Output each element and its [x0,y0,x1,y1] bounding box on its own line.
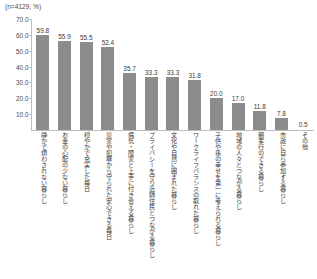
plot-area: 70.060.050.040.030.020.010.0 59.855.955.… [31,19,314,130]
y-tick-label: 20.0 [16,95,28,102]
bar-slot: 35.7 [119,19,141,130]
category-label: 地域の人々とつながる暮らし [236,132,242,210]
bar[interactable]: 0.5 [297,129,310,130]
bar[interactable]: 55.9 [58,41,71,130]
category-label: 市政に自ら参加する暮らし [279,132,285,204]
bar-chart: (n=4129, %) 70.060.050.040.030.020.010.0… [0,0,317,279]
y-tick-mark [29,67,31,68]
bar[interactable]: 17.0 [232,103,245,130]
y-tick-label: 50.0 [16,47,28,54]
bar-value-label: 17.0 [232,95,244,102]
bar[interactable]: 11.8 [253,111,266,130]
bar-slot: 52.4 [97,19,119,130]
category-label: 静かで煩わされない暮らし [40,132,46,204]
y-tick-label: 60.0 [16,31,28,38]
category-label: 災害や犯罪から守られた安心できる毎日 [105,132,111,240]
bar[interactable]: 20.0 [210,98,223,130]
bar[interactable]: 33.3 [166,77,179,130]
category-slot: 親孝行のできる暮らし [250,132,272,192]
y-tick-mark [29,98,31,99]
bar-slot: 11.8 [249,19,271,130]
category-slot: 静かで煩わされない暮らし [32,132,54,204]
bar-slot: 31.8 [184,19,206,130]
bar-slot: 20.0 [206,19,228,130]
bar-series: 59.855.955.552.435.733.333.331.820.017.0… [32,19,314,130]
y-tick-label: 30.0 [16,79,28,86]
bar-value-label: 55.9 [58,33,70,40]
bar-value-label: 35.7 [123,65,135,72]
category-slot: 地域の人々とつながる暮らし [228,132,250,210]
bar-slot: 0.5 [292,19,314,130]
category-slot: 市政に自ら参加する暮らし [271,132,293,204]
bar[interactable]: 59.8 [36,35,49,130]
category-label: 親孝行のできる暮らし [257,132,263,192]
category-slot: 災害や犯罪から守られた安心できる毎日 [97,132,119,240]
bar-slot: 33.3 [140,19,162,130]
y-tick-mark [29,82,31,83]
y-tick-label: 70.0 [16,16,28,23]
y-tick-label: 40.0 [16,63,28,70]
bar-value-label: 0.5 [299,121,308,128]
y-tick-mark [29,114,31,115]
category-slot: 病気・障害と上手に付き合える暮らし [119,132,141,234]
category-label: 病気・障害と上手に付き合える暮らし [127,132,133,234]
bar-slot: 59.8 [32,19,54,130]
bar-value-label: 20.0 [210,90,222,97]
category-slot: プライバシーを守り近隣住民とつながる暮らし [141,132,163,258]
category-labels: 静かで煩わされない暮らしお金の心配の少ない暮らし穏やかで充実した毎日災害や犯罪か… [32,132,315,258]
bar[interactable]: 31.8 [188,80,201,130]
category-slot: 穏やかで充実した毎日 [76,132,98,192]
bar-slot: 17.0 [227,19,249,130]
bar-slot: 33.3 [162,19,184,130]
y-tick-mark [29,19,31,20]
bar-value-label: 55.5 [80,34,92,41]
category-label: ワークライフバランスの取れた暮らし [192,132,198,234]
bar[interactable]: 52.4 [101,47,114,130]
bar-value-label: 7.8 [277,110,286,117]
category-slot: 文化や自然に囲まれた暮らし [163,132,185,210]
category-label: お金の心配の少ない暮らし [61,132,67,204]
category-slot: お金の心配の少ない暮らし [54,132,76,204]
bar[interactable]: 55.5 [80,42,93,130]
category-label: 文化や自然に囲まれた暮らし [170,132,176,210]
bar-slot: 55.9 [54,19,76,130]
bar-slot: 55.5 [75,19,97,130]
sample-size-note: (n=4129, %) [5,3,41,10]
bar-value-label: 52.4 [102,39,114,46]
y-tick-mark [29,35,31,36]
bar-value-label: 11.8 [254,103,266,110]
bar-value-label: 31.8 [188,72,200,79]
bar-value-label: 59.8 [37,27,49,34]
y-tick-mark [29,51,31,52]
bar-value-label: 33.3 [167,69,179,76]
category-slot: その他 [293,132,315,150]
category-label: プライバシーを守り近隣住民とつながる暮らし [149,132,155,258]
x-axis-line [31,130,314,131]
y-tick-label: 10.0 [16,111,28,118]
category-label: 穏やかで充実した毎日 [83,132,89,192]
bar[interactable]: 35.7 [123,73,136,130]
bar-value-label: 33.3 [145,69,157,76]
category-label: その他 [301,132,307,150]
category-slot: ワークライフバランスの取れた暮らし [184,132,206,234]
bar-slot: 7.8 [271,19,293,130]
category-label: 子供や孫の幸せを第一に考えられる暮らし [214,132,220,246]
bar[interactable]: 33.3 [145,77,158,130]
bar[interactable]: 7.8 [275,118,288,130]
category-slot: 子供や孫の幸せを第一に考えられる暮らし [206,132,228,246]
